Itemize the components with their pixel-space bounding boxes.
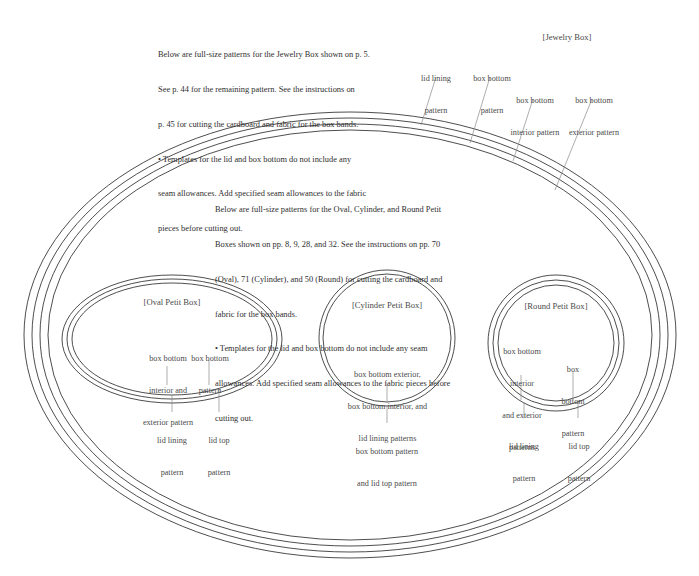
callout-round-lid-lining: lid lining pattern xyxy=(494,421,554,506)
jewelry-box-intro-line-4: • Templates for the lid and box bottom d… xyxy=(158,154,458,166)
oval-petit-box-title: [Oval Petit Box] xyxy=(122,297,222,307)
callout-line: bottom xyxy=(549,397,597,408)
callout-line: lid top xyxy=(193,436,245,447)
callout-line: box xyxy=(549,365,597,376)
callout-line: pattern xyxy=(494,474,554,485)
callout-line: pattern xyxy=(553,474,605,485)
cylinder-petit-box-title: [Cylinder Petit Box] xyxy=(332,300,442,310)
callout-line: box bottom interior, and xyxy=(330,402,445,413)
callout-cylinder-box-bottom-lid-top: box bottom pattern and lid top pattern xyxy=(327,426,447,511)
petit-intro-line-2: Boxes shown on pp. 8, 9, 28, and 32. See… xyxy=(215,239,515,251)
callout-oval-box-bottom: box bottom pattern xyxy=(179,333,241,418)
petit-intro-line-3: (Oval), 71 (Cylinder), and 50 (Round) fo… xyxy=(215,274,515,286)
callout-line: box bottom exterior, xyxy=(330,370,445,381)
callout-line: lid top xyxy=(553,442,605,453)
callout-line: pattern xyxy=(179,386,241,397)
callout-line: pattern xyxy=(193,468,245,479)
callout-jewelry-box-bottom-exterior: box bottom exterior pattern xyxy=(546,75,642,160)
callout-line: box bottom pattern xyxy=(327,447,447,458)
callout-line: box bottom xyxy=(179,354,241,365)
jewelry-box-title: [Jewelry Box] xyxy=(512,32,622,42)
pattern-sheet: Below are full-size patterns for the Jew… xyxy=(0,0,699,576)
callout-line: and lid top pattern xyxy=(327,479,447,490)
callout-line: exterior pattern xyxy=(546,128,642,139)
petit-intro-line-1: Below are full-size patterns for the Ova… xyxy=(215,204,515,216)
round-petit-box-title: [Round Petit Box] xyxy=(506,301,606,311)
callout-line: box bottom xyxy=(546,96,642,107)
callout-oval-lid-top: lid top pattern xyxy=(193,415,245,500)
petit-intro-line-4: fabric for the box bands. xyxy=(215,309,515,321)
callout-round-lid-top: lid top pattern xyxy=(553,421,605,506)
callout-line: lid lining xyxy=(494,442,554,453)
